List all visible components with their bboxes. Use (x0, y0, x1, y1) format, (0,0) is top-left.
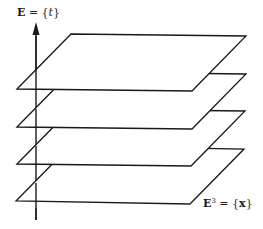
time-axis-label: E = {t} (17, 6, 60, 19)
spacetime-diagram: E = {t} E3 = {x} (0, 0, 263, 229)
arrow-up-icon (33, 22, 40, 35)
space-label: E3 = {x} (203, 197, 253, 210)
